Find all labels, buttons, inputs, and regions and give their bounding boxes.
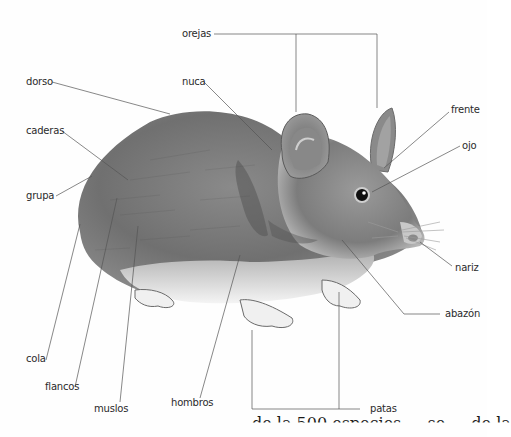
label-ojo: ojo: [462, 140, 476, 152]
eye: [355, 188, 369, 202]
label-flancos: flancos: [45, 381, 79, 393]
cola-line: [46, 224, 80, 360]
front-foot-right: [322, 280, 360, 308]
label-cola: cola: [26, 353, 46, 365]
front-foot-left: [240, 300, 293, 328]
label-caderas: caderas: [26, 125, 64, 137]
label-grupa: grupa: [26, 190, 54, 202]
label-abazon: abazón: [445, 308, 480, 320]
label-patas: patas: [370, 403, 397, 415]
orejas-line: [214, 34, 377, 112]
label-dorso: dorso: [26, 76, 53, 88]
label-nariz: nariz: [455, 262, 479, 274]
label-frente: frente: [451, 104, 480, 116]
dorso-line: [52, 82, 170, 114]
nariz-line: [420, 242, 452, 266]
label-nuca: nuca: [182, 76, 206, 88]
label-muslos: muslos: [94, 403, 128, 415]
label-orejas: orejas: [182, 28, 211, 40]
label-hombros: hombros: [171, 397, 213, 409]
